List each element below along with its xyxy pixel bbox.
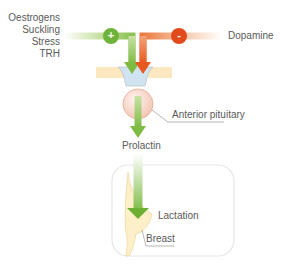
breast-label: Breast xyxy=(146,233,175,245)
inhibitor-dopamine: Dopamine xyxy=(228,30,274,42)
stimulus-suckling: Suckling xyxy=(22,24,60,36)
anterior-pituitary-label: Anterior pituitary xyxy=(172,109,245,121)
stimulus-stress: Stress xyxy=(32,36,60,48)
stimulus-trh: TRH xyxy=(39,48,60,60)
stimulatory-pathway xyxy=(64,36,132,64)
lactation-label: Lactation xyxy=(158,210,199,222)
plus-sign: + xyxy=(106,29,116,41)
prolactin-regulation-diagram: + - Oestrogens Suckling Stress TRH Dopam… xyxy=(0,0,286,266)
minus-sign: - xyxy=(174,29,184,41)
prolactin-label: Prolactin xyxy=(122,140,161,152)
prolactin-release-arrowhead xyxy=(130,126,146,138)
stimulus-oestrogens: Oestrogens xyxy=(8,12,60,24)
pituitary-stalk xyxy=(118,67,153,86)
